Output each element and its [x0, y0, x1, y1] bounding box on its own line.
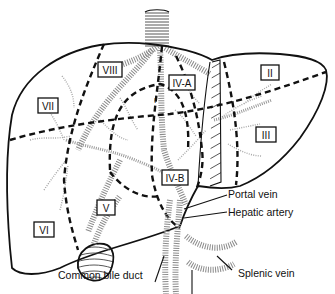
common-bile-duct-label: Common bile duct — [58, 269, 143, 281]
splenic-vein-label: Splenic vein — [238, 267, 295, 279]
splenic-vein-leader — [217, 256, 232, 270]
svg-text:IV-A: IV-A — [173, 78, 192, 89]
svg-text:III: III — [262, 130, 270, 141]
segment-label-ii: II — [261, 65, 279, 80]
segment-label-iv-b: IV-B — [162, 170, 188, 185]
inferior-vena-cava — [145, 10, 169, 46]
hilar-vessels — [165, 200, 236, 294]
segment-label-viii: VIII — [98, 62, 122, 77]
segment-label-vii: VII — [38, 98, 58, 113]
segment-label-iv-a: IV-A — [169, 75, 195, 90]
hepatic-artery-leader — [184, 212, 227, 218]
segment-label-i: I — [154, 96, 156, 105]
segment-label-vi: VI — [34, 222, 54, 237]
portal-vein-label: Portal vein — [228, 188, 278, 200]
hepatic-artery-label: Hepatic artery — [228, 206, 294, 218]
svg-text:VIII: VIII — [102, 65, 117, 76]
common-bile-duct-leader — [155, 256, 164, 282]
svg-text:V: V — [103, 203, 110, 214]
segment-label-v: V — [97, 200, 115, 215]
svg-text:II: II — [267, 68, 273, 79]
liver-segment-diagram: VIII VII IV-A II III IV-B V VI I Portal … — [0, 0, 335, 294]
svg-text:IV-B: IV-B — [166, 173, 185, 184]
segment-label-iii: III — [256, 127, 276, 142]
svg-text:VII: VII — [42, 101, 54, 112]
svg-text:VI: VI — [39, 225, 48, 236]
